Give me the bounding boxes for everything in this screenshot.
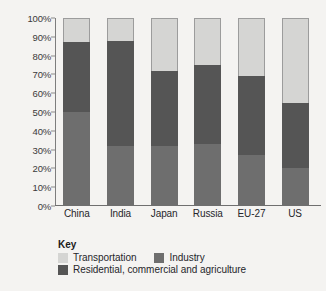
bar-segment[interactable] xyxy=(194,18,221,65)
bar-segment[interactable] xyxy=(107,18,134,41)
legend-color-swatch xyxy=(154,253,164,263)
bar-segment[interactable] xyxy=(151,146,178,206)
bar-segment[interactable] xyxy=(194,65,221,144)
y-axis-tick-label: 60% xyxy=(33,88,51,99)
bar-segment[interactable] xyxy=(238,155,265,206)
bar-segment[interactable] xyxy=(194,144,221,206)
x-axis-category-label: China xyxy=(57,208,97,219)
plot-area: 100%90%80%70%60%50%40%30%20%10%0% xyxy=(55,18,317,206)
x-axis-category-label: Russia xyxy=(188,208,228,219)
y-axis-tick-label: 40% xyxy=(33,125,51,136)
legend-item[interactable]: Residential, commercial and agriculture xyxy=(58,264,246,275)
legend-item-label: Residential, commercial and agriculture xyxy=(73,264,246,275)
bar-segment[interactable] xyxy=(151,71,178,146)
bar-group[interactable] xyxy=(63,18,90,206)
legend-row-primary: TransportationIndustry xyxy=(58,252,320,263)
bar-segment[interactable] xyxy=(282,103,309,169)
x-axis-labels: ChinaIndiaJapanRussiaEU-27US xyxy=(55,208,317,219)
bar-segment[interactable] xyxy=(238,76,265,155)
y-axis-tick-label: 10% xyxy=(33,182,51,193)
bar-segment[interactable] xyxy=(282,168,309,206)
legend-color-swatch xyxy=(58,253,68,263)
legend-title: Key xyxy=(58,239,320,250)
bar-group[interactable] xyxy=(194,18,221,206)
y-axis-tick-label: 20% xyxy=(33,163,51,174)
x-axis-category-label: India xyxy=(100,208,140,219)
legend-item[interactable]: Industry xyxy=(154,252,204,263)
bar-series-container xyxy=(55,18,317,206)
legend-item[interactable]: Transportation xyxy=(58,252,136,263)
y-axis-tick-label: 30% xyxy=(33,144,51,155)
y-axis-tick-label: 50% xyxy=(33,107,51,118)
legend-item-label: Industry xyxy=(169,252,204,263)
y-axis-tick-label: 0% xyxy=(38,201,51,212)
bar-segment[interactable] xyxy=(63,18,90,42)
y-axis-tick-label: 100% xyxy=(28,13,52,24)
bar-segment[interactable] xyxy=(63,42,90,112)
x-axis-category-label: US xyxy=(275,208,315,219)
bar-segment[interactable] xyxy=(238,18,265,76)
chart-legend: Key TransportationIndustry Residential, … xyxy=(58,239,320,275)
legend-color-swatch xyxy=(58,265,68,275)
y-axis-title-container: Share of 2007 energy consumption xyxy=(14,18,28,208)
bar-segment[interactable] xyxy=(107,41,134,146)
bar-segment[interactable] xyxy=(282,18,309,103)
y-axis-tick-label: 90% xyxy=(33,31,51,42)
bar-group[interactable] xyxy=(282,18,309,206)
bar-group[interactable] xyxy=(238,18,265,206)
legend-item-label: Transportation xyxy=(73,252,136,263)
x-axis-category-label: Japan xyxy=(144,208,184,219)
stacked-bar-chart: Share of 2007 energy consumption 100%90%… xyxy=(0,0,326,291)
legend-row-secondary: Residential, commercial and agriculture xyxy=(58,264,320,275)
y-axis-tick-label: 70% xyxy=(33,69,51,80)
y-axis-tick-label: 80% xyxy=(33,50,51,61)
bar-segment[interactable] xyxy=(63,112,90,206)
bar-group[interactable] xyxy=(107,18,134,206)
x-axis-category-label: EU-27 xyxy=(231,208,271,219)
bar-segment[interactable] xyxy=(151,18,178,71)
bar-group[interactable] xyxy=(151,18,178,206)
bar-segment[interactable] xyxy=(107,146,134,206)
